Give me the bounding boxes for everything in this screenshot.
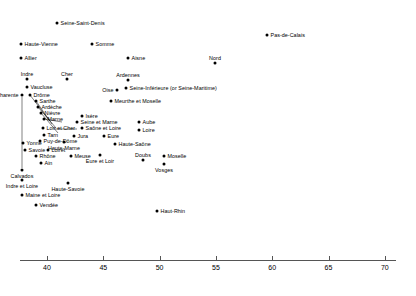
data-point (21, 179, 24, 182)
data-point-label: Vendée (40, 202, 59, 208)
x-axis-tick-label: 50 (156, 264, 164, 271)
data-point-label: Pas-de-Calais (271, 32, 305, 38)
data-point (35, 155, 38, 158)
data-point-label: Cher (61, 71, 73, 77)
data-point (35, 100, 38, 103)
data-point (81, 127, 84, 130)
data-point-label: Jura (78, 133, 89, 139)
x-axis-tick (160, 256, 161, 261)
data-point-label: Seine-Saint-Denis (61, 20, 105, 26)
x-axis-tick (47, 256, 48, 261)
data-point (110, 100, 113, 103)
data-point-label: Indre (21, 71, 34, 77)
data-point (22, 142, 25, 145)
data-point (114, 143, 117, 146)
data-point-label: Aisne (132, 55, 146, 61)
x-axis-tick-label: 55 (212, 264, 220, 271)
data-point-label: Charente (0, 92, 19, 98)
data-point-label: Moselle (168, 153, 187, 159)
data-point (156, 210, 159, 213)
data-point (91, 43, 94, 46)
data-point (127, 57, 130, 60)
data-point-label: Loire (143, 127, 155, 133)
data-point (81, 115, 84, 118)
data-point (103, 135, 106, 138)
x-axis-tick-label: 65 (325, 264, 333, 271)
data-point (26, 78, 29, 81)
data-point-label: Indre et Loire (6, 183, 38, 189)
data-point (70, 155, 73, 158)
x-axis-tick-label: 60 (268, 264, 276, 271)
data-point-label: Loir et Cher (47, 125, 76, 131)
data-point (24, 149, 27, 152)
data-point (29, 94, 32, 97)
data-point (163, 155, 166, 158)
data-point (66, 78, 69, 81)
data-point-label: Seine-Inférieure (or Seine-Maritime) (130, 85, 217, 91)
x-axis-tick (385, 256, 386, 261)
x-axis-tick (216, 256, 217, 261)
data-point (67, 182, 70, 185)
data-point-label: Marne (48, 116, 63, 122)
data-point-label: Oise (102, 87, 113, 93)
data-point (26, 86, 29, 89)
data-point (76, 121, 79, 124)
data-point-label: Eure (108, 133, 120, 139)
data-point (116, 89, 119, 92)
x-axis-tick-label: 45 (99, 264, 107, 271)
data-point-label: Haut-Rhin (161, 208, 186, 214)
data-point-label: Haute-Saône (119, 141, 151, 147)
data-point (43, 134, 46, 137)
data-point (56, 22, 59, 25)
data-point-label: Puy-de-Dôme (44, 138, 78, 144)
data-point (127, 79, 130, 82)
data-point (21, 94, 24, 97)
data-point-label: Saône et Loire (86, 125, 122, 131)
data-point (125, 87, 128, 90)
data-point (99, 154, 102, 157)
data-point-label: Doubs (135, 152, 151, 158)
data-point-label: Vosges (155, 167, 173, 173)
x-axis-tick-label: 70 (381, 264, 389, 271)
data-point (20, 43, 23, 46)
data-point (39, 140, 42, 143)
data-point-label: Vaucluse (31, 84, 53, 90)
data-point (40, 112, 43, 115)
data-point (37, 106, 40, 109)
data-point-label: Nord (209, 55, 221, 61)
data-point-label: Allier (25, 55, 37, 61)
x-axis-line (20, 260, 396, 261)
data-point-label: Somme (96, 41, 115, 47)
x-axis-tick-label: 40 (43, 264, 51, 271)
data-point (42, 127, 45, 130)
scatter-plot: Seine-Saint-DenisHaute-VienneSommePas-de… (0, 0, 416, 296)
data-point (35, 204, 38, 207)
data-point-label: Eure et Loir (86, 158, 114, 164)
data-point-label: Haute-Vienne (25, 41, 58, 47)
data-point (138, 121, 141, 124)
data-point-label: Ain (45, 160, 53, 166)
data-point (40, 162, 43, 165)
data-point-label: Rhône (40, 153, 56, 159)
data-point-label: Ardennes (116, 72, 139, 78)
data-point (43, 118, 46, 121)
data-point (163, 163, 166, 166)
data-point (21, 169, 24, 172)
data-point (20, 57, 23, 60)
x-axis-tick (103, 256, 104, 261)
data-point-label: Aube (143, 119, 156, 125)
x-axis-tick (272, 256, 273, 261)
data-point (21, 194, 24, 197)
data-point-label: Meurthe et Moselle (115, 98, 162, 104)
data-point (138, 129, 141, 132)
data-point (214, 62, 217, 65)
data-point (266, 34, 269, 37)
data-point (47, 149, 50, 152)
x-axis-tick (329, 256, 330, 261)
data-point (142, 159, 145, 162)
data-point-label: Maine et Loire (26, 192, 61, 198)
